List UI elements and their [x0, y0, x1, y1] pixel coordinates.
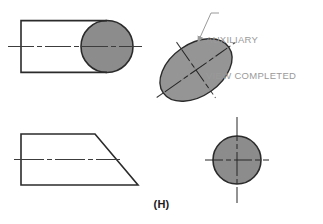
view-bottom-left-trapezoid	[14, 134, 138, 185]
view-bottom-right-circle	[205, 117, 269, 203]
auxiliary-view-note-line1: AUXILIARY	[206, 34, 296, 46]
plate-label: (H)	[0, 198, 323, 210]
auxiliary-view-note: AUXILIARY VIEW COMPLETED	[206, 10, 296, 106]
view-top-left-cylinder	[8, 21, 142, 73]
drawing-sheet: AUXILIARY VIEW COMPLETED (H)	[0, 0, 323, 224]
auxiliary-view-note-line2: VIEW COMPLETED	[206, 70, 296, 82]
